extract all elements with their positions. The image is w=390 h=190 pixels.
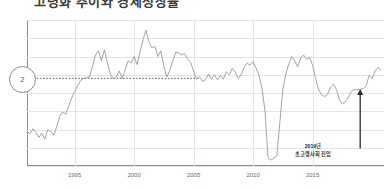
x-tick-label: 1995 [60, 172, 90, 178]
gridline-horizontal [27, 166, 384, 167]
highlight-marker-2: 2 [9, 66, 36, 93]
x-tick-label: 2005 [179, 172, 209, 178]
data-series-path [27, 30, 381, 160]
chart-title: 고령화 추이와 경제성장률 [34, 0, 180, 10]
chart-screenshot: 고령화 추이와 경제성장률 1050-5-10 1995200020052010… [0, 0, 390, 190]
annotation-line-1: 2019년 [273, 142, 353, 150]
annotation-arrow-icon [357, 89, 363, 148]
x-tick-label: 2000 [119, 172, 149, 178]
annotation-label: 2019년 초고령사회 진입 [273, 142, 353, 158]
annotation-line-2: 초고령사회 진입 [273, 150, 353, 158]
x-tick-label: 2015 [298, 172, 328, 178]
x-tick-label: 2010 [238, 172, 268, 178]
